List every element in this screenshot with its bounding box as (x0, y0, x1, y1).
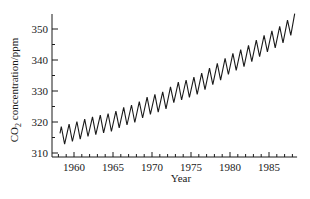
y-tick-label: 340 (32, 54, 49, 66)
axes: 310320330340350196019651970197519801985 (32, 14, 298, 173)
x-tick-label: 1980 (219, 161, 242, 173)
co2-series-line (60, 14, 295, 145)
x-axis-title: Year (171, 172, 192, 184)
x-tick-label: 1985 (258, 161, 281, 173)
y-axis-title: CO2 concentration/ppm (8, 37, 23, 142)
co2-chart: 310320330340350196019651970197519801985 … (0, 0, 310, 199)
y-tick-label: 310 (32, 147, 49, 159)
y-tick-label: 320 (32, 116, 49, 128)
y-axis-title-rest: concentration/ppm (8, 37, 20, 123)
y-tick-label: 350 (32, 23, 49, 35)
y-axis-title-main: CO (8, 127, 20, 142)
x-tick-label: 1960 (63, 161, 86, 173)
x-tick-label: 1965 (102, 161, 125, 173)
x-tick-label: 1970 (141, 161, 164, 173)
y-tick-label: 330 (32, 85, 49, 97)
